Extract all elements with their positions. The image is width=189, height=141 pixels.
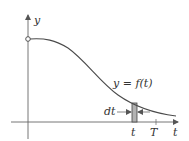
T-label: T (150, 126, 159, 139)
y-axis-label: y (33, 14, 41, 27)
open-circle-start (26, 37, 31, 42)
diagram-svg: y y = f(t) dt t T t (0, 0, 189, 141)
dt-label: dt (104, 105, 116, 118)
curve-f-of-t (30, 39, 176, 116)
t-axis-label: t (173, 126, 178, 139)
diagram-canvas: y y = f(t) dt t T t (0, 0, 189, 141)
curve-label: y = f(t) (112, 77, 153, 90)
t-strip-label: t (131, 126, 136, 139)
